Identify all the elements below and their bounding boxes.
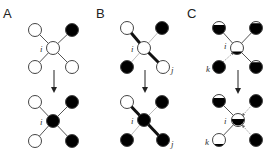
node-white: [29, 61, 42, 74]
node-k-mostly-white: [213, 134, 226, 147]
influence-arrow-dashed: [223, 53, 233, 62]
node-black: [66, 135, 79, 148]
node-k-black: [213, 61, 226, 74]
panel-b: i j i j: [121, 22, 175, 150]
node-center-i: [138, 114, 151, 127]
node-center-i: [138, 42, 151, 55]
node-black: [250, 134, 263, 147]
panel-label-a: A: [3, 6, 12, 21]
node-mostly-black: [250, 21, 263, 34]
node-label-i: i: [131, 116, 134, 126]
panel-a-bottom-graph: i: [29, 96, 79, 148]
node-black: [66, 24, 79, 37]
node-black: [250, 95, 263, 108]
panel-a: i i: [29, 24, 79, 148]
node-label-k: k: [205, 137, 210, 147]
node-label-j: j: [170, 139, 174, 149]
node-label-i: i: [40, 117, 43, 127]
node-white: [121, 22, 134, 35]
node-black: [121, 61, 134, 74]
node-label-j: j: [170, 65, 174, 75]
panel-b-bottom-graph: i j: [121, 96, 175, 150]
node-black: [66, 96, 79, 109]
node-white: [29, 24, 42, 37]
panel-a-top-graph: i: [29, 24, 79, 74]
node-mostly-black: [250, 60, 263, 73]
node-label-i: i: [224, 41, 227, 51]
influence-arrow-dashed: [243, 105, 252, 115]
node-center-i: [231, 42, 244, 55]
node-white: [66, 61, 79, 74]
node-center-i: [47, 42, 60, 55]
node-white: [29, 96, 42, 109]
node-mostly-black: [213, 94, 226, 107]
panel-label-b: B: [96, 6, 105, 21]
node-black: [156, 22, 169, 35]
panel-label-c: C: [187, 6, 196, 21]
node-center-i: [232, 114, 245, 127]
node-black: [156, 96, 169, 109]
node-white: [121, 96, 134, 109]
node-label-i: i: [131, 44, 134, 54]
node-center-i: [47, 115, 60, 128]
panel-c: i k: [205, 21, 263, 147]
node-j-white: [157, 61, 170, 74]
node-black: [121, 134, 134, 147]
panel-c-top-graph: i k: [206, 21, 263, 74]
network-diagram: A B C i i: [0, 0, 278, 157]
node-label-i: i: [224, 116, 227, 126]
node-label-k: k: [206, 64, 211, 74]
node-j-black: [157, 134, 170, 147]
node-label-i: i: [40, 44, 43, 54]
influence-arrow-dashed: [243, 126, 252, 136]
panel-c-bottom-graph: i k: [205, 94, 263, 147]
panel-b-top-graph: i j: [121, 22, 175, 76]
node-mostly-black: [213, 21, 226, 34]
node-white: [29, 135, 42, 148]
